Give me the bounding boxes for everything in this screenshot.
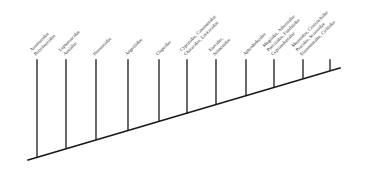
cladogram-tree-svg xyxy=(0,0,375,178)
cladogram-figure: ArrenuroidaePolychoerlidaeLeptostracidae… xyxy=(0,0,375,178)
backbone-line xyxy=(28,68,340,160)
branch-layer xyxy=(37,60,330,157)
